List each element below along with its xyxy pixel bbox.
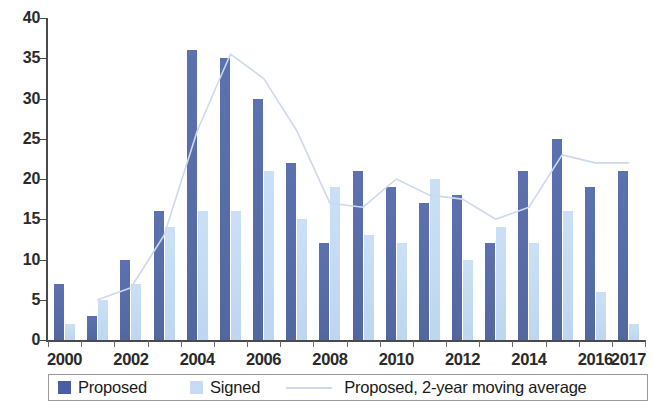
x-axis-tick <box>546 341 547 347</box>
x-axis-tick <box>347 341 348 347</box>
legend-item-proposed: Proposed <box>49 375 147 400</box>
y-axis-tick <box>40 18 47 19</box>
y-axis-tick <box>40 179 47 180</box>
x-axis-tick <box>214 341 215 347</box>
x-axis-tick <box>413 341 414 347</box>
x-axis-tick <box>280 341 281 347</box>
moving-average-line <box>0 0 653 407</box>
legend-swatch-signed-icon <box>190 381 203 394</box>
y-axis-tick <box>40 99 47 100</box>
x-axis-tick-label: 2016 <box>578 350 613 369</box>
y-axis-tick <box>40 219 47 220</box>
legend-item-moving-average: Proposed, 2-year moving average <box>260 375 586 400</box>
x-axis-tick <box>114 341 115 347</box>
x-axis-tick <box>247 341 248 347</box>
x-axis-tick-label: 2006 <box>246 350 281 369</box>
x-axis-tick <box>313 341 314 347</box>
x-axis-tick-label: 2008 <box>312 350 347 369</box>
x-axis-tick <box>48 341 49 347</box>
x-axis-tick <box>512 341 513 347</box>
x-axis-tick <box>181 341 182 347</box>
x-axis-tick <box>380 341 381 347</box>
legend-label-proposed: Proposed <box>78 378 147 397</box>
x-axis-tick <box>446 341 447 347</box>
y-axis-tick <box>40 340 47 341</box>
x-axis-tick-label: 2002 <box>113 350 148 369</box>
x-axis-tick <box>81 341 82 347</box>
x-axis-tick <box>612 341 613 347</box>
legend-swatch-proposed-icon <box>58 381 71 394</box>
x-axis-tick <box>579 341 580 347</box>
legend-label-moving-average: Proposed, 2-year moving average <box>344 378 586 397</box>
x-axis-tick-label: 2012 <box>445 350 480 369</box>
x-axis-tick-label: 2014 <box>511 350 546 369</box>
x-axis-tick-label: 2000 <box>47 350 82 369</box>
legend-label-signed: Signed <box>210 378 260 397</box>
legend-line-moving-average-icon <box>286 387 332 389</box>
x-axis-tick-label: 2004 <box>180 350 215 369</box>
x-axis-tick-label: 2017 <box>611 350 646 369</box>
x-axis-tick-label: 2010 <box>379 350 414 369</box>
y-axis-tick <box>40 260 47 261</box>
chart-legend: Proposed Signed Proposed, 2-year moving … <box>48 374 648 401</box>
x-axis-tick <box>479 341 480 347</box>
bar-chart: 0510152025303540 20002002200420062008201… <box>0 0 653 407</box>
y-axis-tick <box>40 58 47 59</box>
x-axis-tick <box>645 341 646 347</box>
y-axis-tick <box>40 139 47 140</box>
legend-item-signed: Signed <box>181 375 260 400</box>
y-axis-tick <box>40 300 47 301</box>
x-axis-tick <box>148 341 149 347</box>
